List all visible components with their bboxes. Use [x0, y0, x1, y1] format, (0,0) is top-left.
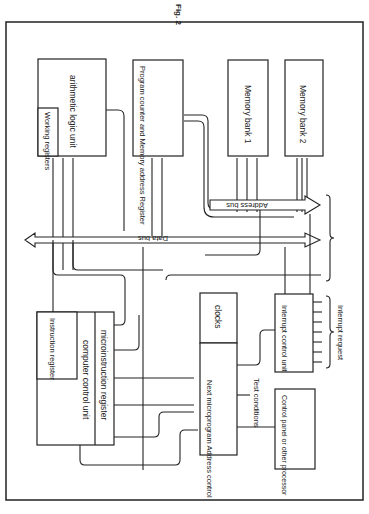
pc-mar-label: Program counter and Memory address Regis… — [138, 66, 147, 225]
working-registers-label: Working registers — [43, 112, 52, 170]
address-bus-label: Address bus — [226, 201, 268, 210]
control-panel-label: Control panel or other processor — [280, 395, 288, 496]
cpu-block-diagram: Fig. 2 arithmetic logic unit Working reg… — [0, 0, 369, 514]
next-microprogram-label: Next microprogram Address control — [205, 380, 214, 498]
data-bus-label: Data bus — [138, 234, 168, 243]
test-conditions-label: Test conditions — [252, 378, 261, 428]
control-panel-block — [275, 389, 315, 469]
bus-brace — [326, 195, 334, 281]
interrupt-request-label: Interrupt request — [336, 305, 345, 361]
microinstruction-register-label: microinstruction register — [99, 330, 109, 420]
data-bus — [25, 233, 320, 247]
alu-label: arithmetic logic unit — [68, 75, 78, 148]
interrupt-brace — [326, 296, 334, 368]
instruction-register-label: Instruction register — [48, 318, 57, 380]
computer-control-unit-label: computer control unit — [81, 340, 91, 420]
interrupt-control-label: Interrupt control unit — [280, 305, 289, 373]
clocks-label: clocks — [213, 305, 223, 329]
memory-bank-2-label: Memory bank 2 — [298, 85, 308, 144]
memory-bank-1-label: Memory bank 1 — [243, 85, 253, 144]
